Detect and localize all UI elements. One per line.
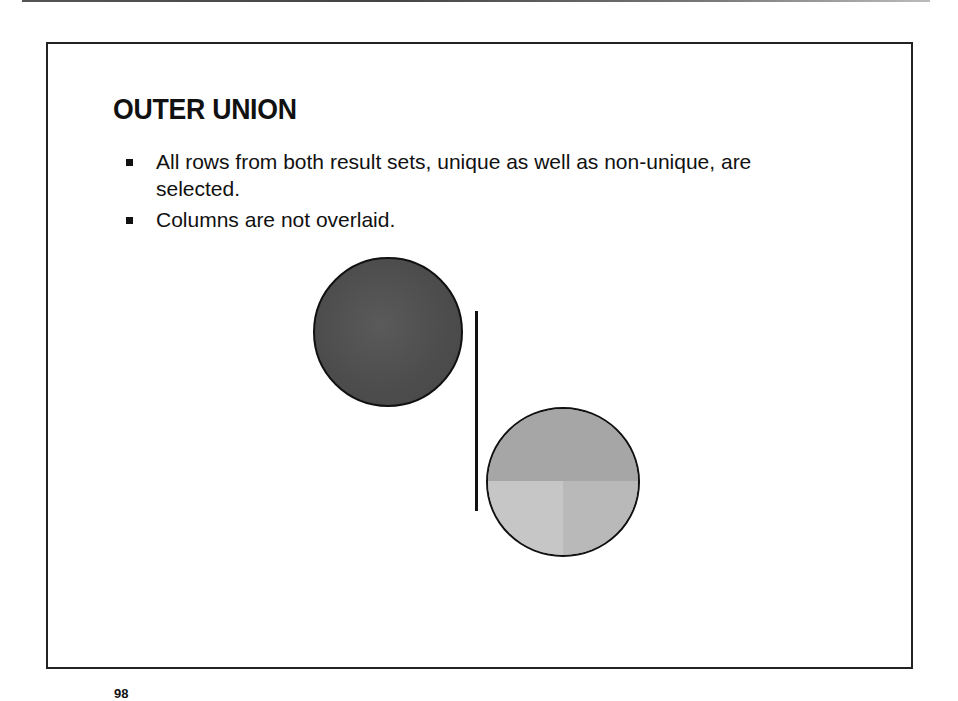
square-bullet-icon bbox=[126, 159, 133, 166]
result-set-2-circle bbox=[486, 407, 640, 557]
slide-title: OUTER UNION bbox=[113, 93, 297, 126]
slide-frame: OUTER UNION All rows from both result se… bbox=[46, 42, 913, 669]
separator-line bbox=[475, 311, 478, 511]
circle-region-bottom-left bbox=[488, 481, 563, 555]
result-set-1-circle bbox=[313, 257, 463, 407]
bullet-text: All rows from both result sets, unique a… bbox=[156, 148, 796, 202]
circle-region-bottom-right bbox=[563, 481, 638, 555]
bullet-item: Columns are not overlaid. bbox=[123, 206, 796, 233]
top-rule bbox=[22, 0, 930, 2]
circle-region-top bbox=[488, 409, 638, 481]
bullet-list: All rows from both result sets, unique a… bbox=[123, 148, 796, 237]
page-number: 98 bbox=[114, 686, 128, 701]
bullet-item: All rows from both result sets, unique a… bbox=[123, 148, 796, 202]
square-bullet-icon bbox=[126, 217, 133, 224]
bullet-text: Columns are not overlaid. bbox=[156, 206, 796, 233]
